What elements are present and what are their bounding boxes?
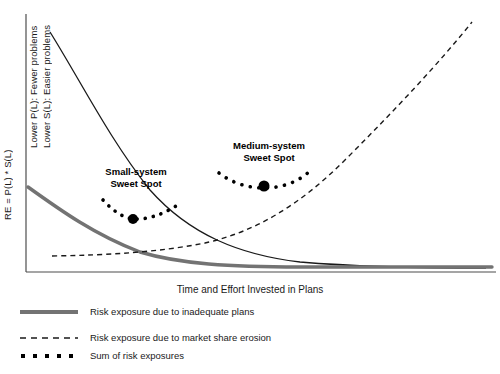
curve-small-system-sweet-spot [103,200,176,219]
legend-label-market-share-erosion: Risk exposure due to market share erosio… [90,332,271,343]
annotation-small-system-line1: Small-system [78,166,194,178]
annotation-medium-system-line2: Sweet Spot [202,152,336,164]
legend-swatch-thick-solid-gray [18,305,80,319]
legend-label-sum-of-risk-exposures: Sum of risk exposures [90,350,184,361]
legend-label-inadequate-plans: Risk exposure due to inadequate plans [90,306,254,317]
marker-small-system-sweet-spot [128,214,138,224]
annotation-small-system-line2: Sweet Spot [78,178,194,190]
annotation-small-system: Small-system Sweet Spot [78,166,194,190]
annotation-medium-system: Medium-system Sweet Spot [202,140,336,164]
legend-swatch-thick-dotted-black [18,349,80,363]
curve-market-share-erosion [52,22,472,256]
legend-swatch-thin-dashed-black [18,331,80,345]
x-axis-label: Time and Effort Invested in Plans [0,284,500,295]
annotation-medium-system-line1: Medium-system [202,140,336,152]
marker-medium-system-sweet-spot [259,181,270,192]
risk-exposure-chart: RE = P(L) * S(L) Lower P(L): Fewer probl… [0,0,500,374]
